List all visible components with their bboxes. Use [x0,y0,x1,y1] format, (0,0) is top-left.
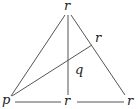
right-side-point-label: r [95,30,102,45]
bottom-left-label: p [2,92,11,107]
triangle-diagram: r r q p r r [0,0,138,109]
apex-label: r [64,0,71,13]
bottom-right-label: r [127,93,134,108]
right-side-line [71,15,125,95]
left-side-line [11,15,65,96]
intersection-label: q [75,62,83,77]
bottom-mid-label: r [64,93,71,108]
